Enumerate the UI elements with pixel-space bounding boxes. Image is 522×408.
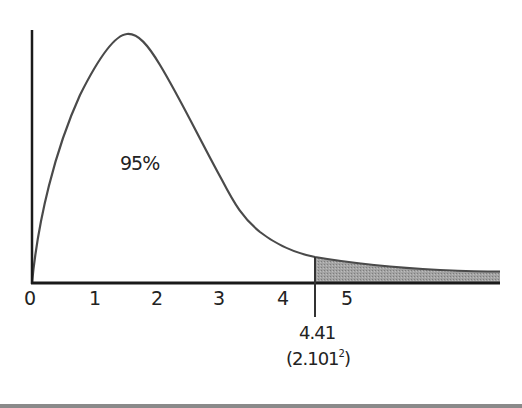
f-distribution-chart: 0 1 2 3 4 5 95% 4.41 (2.1012) <box>0 0 522 408</box>
critical-value-expression: (2.1012) <box>286 348 350 369</box>
x-tick-4: 4 <box>277 287 289 309</box>
density-curve <box>32 34 500 283</box>
critical-expr-close: ) <box>344 348 350 369</box>
area-percent-label: 95% <box>120 152 159 174</box>
critical-expr-base: (2.101 <box>286 348 339 369</box>
critical-value-label: 4.41 <box>299 322 335 343</box>
x-tick-0: 0 <box>24 287 36 309</box>
x-tick-2: 2 <box>151 287 163 309</box>
x-tick-5: 5 <box>341 287 353 309</box>
x-tick-1: 1 <box>89 287 101 309</box>
bottom-border-rule <box>0 404 522 408</box>
x-tick-3: 3 <box>213 287 225 309</box>
